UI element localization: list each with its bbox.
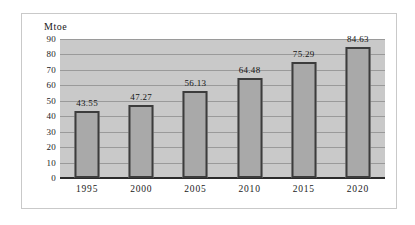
bar-group: 43.55 bbox=[60, 39, 114, 178]
bar-value-label: 47.27 bbox=[130, 92, 152, 102]
y-tick-label: 40 bbox=[24, 111, 56, 121]
bar-group: 56.13 bbox=[168, 39, 222, 178]
bar-group: 47.27 bbox=[114, 39, 168, 178]
bar bbox=[345, 47, 370, 178]
x-tick-label: 2020 bbox=[347, 184, 369, 194]
bar-value-label: 84.63 bbox=[347, 34, 369, 44]
y-tick-label: 80 bbox=[24, 49, 56, 59]
chart-figure: Mtoe 0102030405060708090 43.5547.2756.13… bbox=[21, 13, 397, 209]
bar-series: 43.5547.2756.1364.4875.2984.63 bbox=[60, 39, 385, 178]
y-tick-label: 20 bbox=[24, 142, 56, 152]
y-tick-label: 0 bbox=[24, 173, 56, 183]
y-tick-label: 10 bbox=[24, 158, 56, 168]
x-tick-label: 1995 bbox=[76, 184, 98, 194]
x-axis-tick-labels: 199520002005201020152020 bbox=[60, 184, 385, 200]
y-tick-label: 50 bbox=[24, 96, 56, 106]
x-tick-label: 2015 bbox=[293, 184, 315, 194]
x-tick-label: 2000 bbox=[130, 184, 152, 194]
y-tick-label: 70 bbox=[24, 65, 56, 75]
bar bbox=[237, 78, 262, 178]
bar-group: 64.48 bbox=[223, 39, 277, 178]
bar-group: 84.63 bbox=[331, 39, 385, 178]
x-tick-label: 2010 bbox=[238, 184, 260, 194]
x-tick-label: 2005 bbox=[184, 184, 206, 194]
bar bbox=[183, 91, 208, 178]
bar-value-label: 75.29 bbox=[293, 49, 315, 59]
bar-value-label: 43.55 bbox=[76, 98, 98, 108]
bar bbox=[75, 111, 100, 178]
bar bbox=[129, 105, 154, 178]
y-tick-label: 30 bbox=[24, 127, 56, 137]
bar-value-label: 56.13 bbox=[185, 78, 207, 88]
bar bbox=[291, 62, 316, 178]
bar-value-label: 64.48 bbox=[239, 65, 261, 75]
y-axis-tick-labels: 0102030405060708090 bbox=[22, 14, 56, 210]
y-tick-label: 60 bbox=[24, 80, 56, 90]
y-tick-label: 90 bbox=[24, 34, 56, 44]
bar-group: 75.29 bbox=[277, 39, 331, 178]
